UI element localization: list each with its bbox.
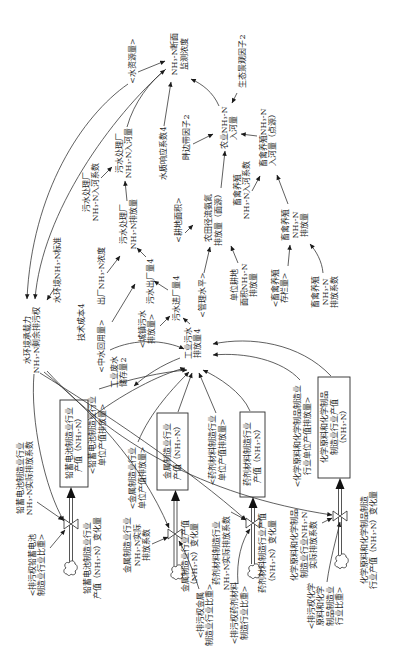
label-line: <排污权药剂材料	[229, 582, 239, 645]
label-line: 排放量4	[192, 328, 202, 357]
label-line: （NH₃-N）变化量	[189, 523, 199, 590]
label-line: <铅蓄电池制造业行业	[87, 396, 97, 475]
node-water-quality-response-coef: 水质响应系数4	[158, 126, 168, 179]
label-line: <城镇污水	[137, 310, 147, 349]
label-line: <化学原料和化学制品制造业	[292, 385, 302, 488]
node-livestock-nh3-to-river: 畜禽养殖NH₃-N 入河量（点源）	[258, 109, 278, 168]
label-line: 畜禽养殖	[280, 209, 290, 241]
label-line: 制造行业比重>	[239, 586, 249, 641]
arrow-chemical-coef-to-valve	[322, 518, 332, 523]
label-line: NH₃-N实际排放系数	[24, 441, 34, 516]
label-line: 工业污水	[183, 327, 193, 359]
arrow-arable-to-runoff	[185, 225, 193, 233]
label-line: 铅蓄电池制造业行业	[82, 522, 92, 594]
stock-pharma-output: 药剂材料制造行业 产值（NH₃-N）	[242, 422, 262, 486]
label-line: 药剂材料制造行业	[211, 521, 221, 585]
arrow-response-coef-to-concentration	[164, 82, 171, 126]
cloud-icon	[335, 554, 348, 569]
node-livestock-nh3-discharge: 畜禽养殖 NH₃-N 排放量	[280, 209, 309, 241]
node-eco-landscape-factor: 生态景观因子2	[237, 34, 247, 87]
arrow-industrial-ww-to-storage	[134, 358, 180, 386]
node-management-level: <管理水平>	[197, 272, 207, 317]
label-line: 排放量	[299, 213, 309, 237]
label-line: 污水处理厂	[81, 172, 91, 212]
label-line: 畜禽养殖	[310, 276, 320, 308]
label-line: 单位耕地	[229, 269, 239, 301]
label-line: 污水进厂量4	[171, 275, 181, 320]
label-line: 畜禽养殖NH₃-N	[258, 109, 268, 168]
label-line: 水环境NH₃-N标准	[52, 237, 62, 304]
label-line: 制造业行业比重>	[204, 584, 214, 647]
label-line: NH₃-N入河系数	[90, 163, 100, 222]
node-arable-area: <耕地面积>	[173, 197, 183, 242]
stock-flow-diagram: NH₃-N断面 监测浓度 <水资源量> 生态景观因子2 农业NH₃-N 入河量 …	[0, 0, 393, 661]
label-line: <水资源量>	[127, 38, 137, 83]
node-agri-nh3-to-river: 农业NH₃-N 入河量	[219, 107, 239, 150]
stock-chemical-output: 化学原料和化学制品 制造业行业产值 （NH₃-N）	[319, 391, 348, 463]
arrow-intake-to-outflow	[154, 281, 168, 290]
label-line: 产值（NH₃-N）	[252, 425, 262, 484]
arrow-livestock-river-to-agri	[241, 134, 257, 136]
label-line: 水质响应系数4	[158, 126, 168, 179]
label-line: <畜禽养殖	[270, 269, 280, 308]
label-line: 水环境承载力	[22, 316, 32, 364]
node-farmland-runoff-discharge: 农田径流氨氮 排放量（面源）	[203, 190, 223, 246]
label-line: 药剂材料制造行业产值	[257, 513, 267, 593]
label-line: NH₃-N剩余排污权	[31, 307, 41, 374]
flow-pharma-output-change: 药剂材料制造行业产值 （NH₃-N）变化量	[257, 513, 277, 593]
label-line: 产值（NH₃-N）	[73, 414, 83, 473]
label-line: 畔边带因子2	[181, 114, 191, 159]
label-line: 实际排放系数	[308, 521, 318, 569]
label-line: 金属制造业行业产值	[180, 520, 190, 592]
flow-arrowhead-icon	[336, 478, 345, 489]
label-line: 农田径流氨氮	[203, 194, 213, 242]
flow-lead-battery	[64, 487, 78, 576]
arrow-runoff-to-agri	[221, 151, 225, 188]
node-livestock-to-river-coef: 畜禽养殖 NH₃-N入河系数	[232, 161, 252, 220]
node-metal-permit-share: <排污权金属 制造业行业比重>	[195, 584, 215, 647]
valve-icon	[333, 511, 340, 521]
label-line: <金属制造业行业	[127, 447, 137, 510]
arrow-metal-coef-to-valve	[152, 537, 168, 544]
node-pharma-actual-discharge-coef: 药剂材料制造行业 NH₃-N实际排放系数	[211, 516, 231, 591]
node-unit-arable-nh3-discharge: 单位耕地 面积NH₃-N 排放量	[229, 264, 258, 307]
flow-chemical	[333, 478, 348, 569]
label-line: 行业单位产值排放量>	[302, 397, 312, 476]
label-line: 药剂材料制造行业	[242, 422, 252, 486]
label-line: 畜禽养殖	[232, 174, 242, 206]
label-line: 工业废水	[109, 356, 119, 388]
node-pharma-permit-share: <排污权药剂材料 制造行业比重>	[229, 582, 249, 645]
label-line: 金属制造业行业	[122, 517, 132, 573]
label-line: 污水出厂量4	[145, 258, 155, 303]
node-chemical-permit-share: <排污权化学 原料和化学 制品制造业 行业比重>	[306, 583, 345, 630]
label-line: 制品制造业	[325, 586, 335, 626]
label-line: 行业比重>	[334, 587, 344, 626]
node-metal-unit-output-discharge: <金属制造业行业 单位产值排放量>	[127, 447, 147, 510]
node-urban-sewage-discharge: <城镇污水 排放量>	[137, 310, 157, 349]
stock-lead-output: 铅蓄电池制造业行业 产值（NH₃-N）	[64, 407, 84, 479]
arrow-industrial-ww-to-intake	[183, 318, 190, 324]
node-effluent-nh3-concentration: 出厂NH₃-N浓度	[96, 247, 106, 306]
valve-icon	[64, 519, 71, 529]
label-line: 化学原料和化学制品	[319, 391, 329, 463]
label-line: NH₃-N实际	[132, 524, 142, 567]
label-line: 入河量	[228, 116, 238, 140]
label-line: 化学原料和化学制品	[289, 509, 299, 581]
label-line: 单位产值排放量>	[137, 447, 147, 510]
label-line: 铅蓄电池制造业行业	[15, 442, 25, 514]
arrow-effluent-conc-to-wwtp-discharge	[107, 256, 120, 273]
node-water-env-nh3-standard: 水环境NH₃-N标准	[52, 237, 62, 304]
arrow-pharma-unit-to-industrial-ww	[199, 373, 216, 413]
label-line: 制造业行业NH₃-N	[299, 512, 309, 579]
label-line: 排放系数	[329, 276, 339, 308]
node-livestock-discharge-coef: 畜禽养殖 NH₃-N 排放系数	[310, 276, 339, 308]
arrow-livestock-coef-to-livestock-river	[252, 176, 260, 191]
arrow-metal-stock-to-industrial-ww	[178, 373, 192, 412]
arrow-pharma-stock-to-industrial-ww	[203, 370, 250, 411]
label-line: 污水处理厂	[118, 204, 128, 244]
label-line: （NH₃-N）	[339, 406, 348, 449]
label-line: NH₃-N入河系数	[241, 161, 251, 220]
label-line: 产值（NH₃-N）	[172, 422, 182, 481]
label-line: <药剂材料制造行业	[207, 415, 217, 486]
arrow-chemical-unit-to-industrial-ww	[213, 354, 300, 380]
